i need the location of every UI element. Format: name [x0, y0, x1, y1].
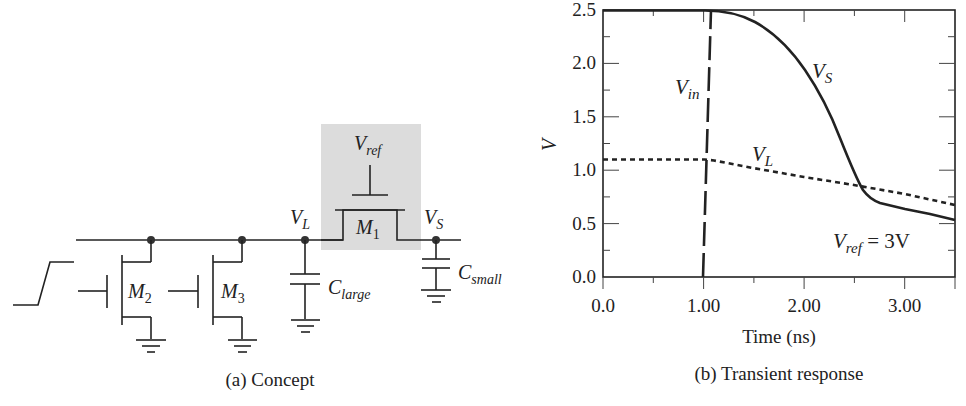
svg-text:0.5: 0.5 — [572, 213, 596, 234]
transistor-m2 — [78, 240, 166, 352]
svg-text:1.0: 1.0 — [572, 159, 596, 180]
svg-text:1.00: 1.00 — [687, 295, 720, 316]
annotation-vref: Vref = 3V — [833, 229, 910, 256]
panel-b-chart: 0.0 0.5 1.0 1.5 2.0 2.5 0.0 1.00 2.00 3.… — [538, 0, 955, 385]
figure: Vref M1 M2 M3 VL VS Clarge Csmall (a) Co… — [0, 0, 966, 406]
label-csmall: Csmall — [458, 261, 502, 287]
caption-b: (b) Transient response — [695, 363, 864, 385]
svg-text:2.5: 2.5 — [572, 0, 596, 20]
input-step-icon — [13, 262, 74, 305]
x-axis-label: Time (ns) — [742, 326, 816, 348]
y-axis-label: V — [538, 136, 560, 151]
svg-text:0.0: 0.0 — [591, 295, 615, 316]
svg-text:2.00: 2.00 — [787, 295, 820, 316]
label-vl-curve: VL — [752, 142, 773, 169]
label-vs-curve: VS — [812, 59, 833, 86]
x-tick-labels: 0.0 1.00 2.00 3.00 — [591, 295, 921, 316]
series-vin-line — [703, 10, 711, 277]
label-vs: VS — [424, 206, 443, 232]
svg-text:0.0: 0.0 — [572, 266, 596, 287]
capacitor-small — [421, 240, 451, 302]
capacitor-large — [290, 240, 320, 332]
panel-a-labels: Vref M1 M2 M3 VL VS Clarge Csmall (a) Co… — [127, 132, 502, 391]
label-vl: VL — [290, 206, 310, 232]
y-tick-labels: 0.0 0.5 1.0 1.5 2.0 2.5 — [572, 0, 596, 287]
caption-a: (a) Concept — [225, 369, 315, 391]
svg-text:2.0: 2.0 — [572, 52, 596, 73]
label-m3: M3 — [220, 280, 245, 306]
series-vs-line — [603, 11, 955, 221]
y-ticks — [603, 37, 955, 251]
label-m2: M2 — [127, 280, 152, 306]
label-vin: Vin — [675, 75, 700, 102]
panel-a-circuit — [13, 124, 461, 352]
svg-text:1.5: 1.5 — [572, 106, 596, 127]
svg-text:3.00: 3.00 — [888, 295, 921, 316]
series-vl-line — [603, 160, 955, 206]
label-clarge: Clarge — [328, 276, 370, 302]
